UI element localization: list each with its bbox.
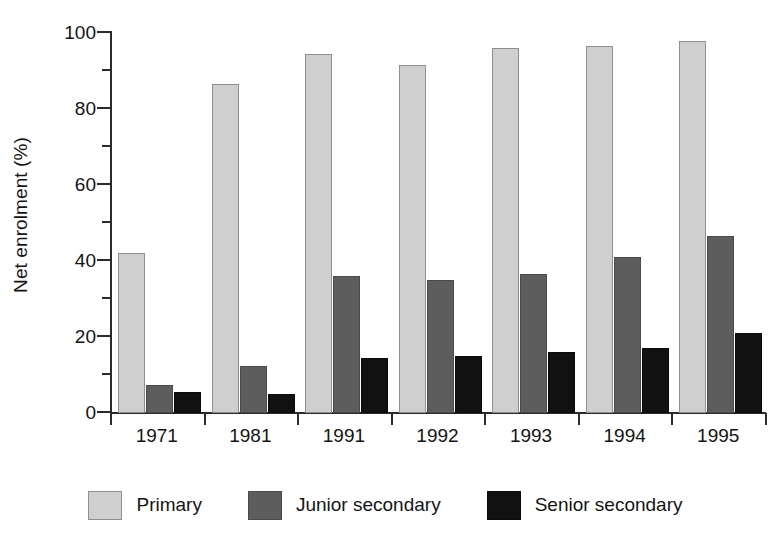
legend-item: Junior secondary <box>248 491 441 520</box>
x-axis-tick <box>391 413 393 425</box>
bar-group <box>492 33 575 413</box>
x-axis-tick <box>110 413 112 425</box>
x-axis-tick <box>204 413 206 425</box>
bar-primary <box>399 65 426 413</box>
legend-swatch-senior <box>487 491 521 520</box>
y-axis-tick-major <box>97 107 110 109</box>
y-axis-tick-label: 40 <box>50 250 96 272</box>
y-axis-tick-minor <box>102 145 110 147</box>
bar-primary <box>305 54 332 413</box>
bar-group <box>586 33 669 413</box>
legend-label: Senior secondary <box>535 494 683 516</box>
legend-swatch-junior <box>248 491 282 520</box>
y-axis-tick-minor <box>102 221 110 223</box>
y-axis-tick-label: 0 <box>50 402 96 424</box>
x-axis-tick <box>484 413 486 425</box>
x-axis-tick-labels: 1971198119911992199319941995 <box>110 425 765 457</box>
bar-junior <box>333 276 360 413</box>
bar-chart: Net enrolment (%) 020406080100 197119811… <box>0 0 771 539</box>
y-axis-tick-label: 80 <box>50 98 96 120</box>
bar-primary <box>118 253 145 413</box>
bar-group <box>679 33 762 413</box>
bar-group <box>399 33 482 413</box>
x-axis-tick-label: 1971 <box>136 425 178 447</box>
bar-group <box>212 33 295 413</box>
bar-senior <box>174 392 201 413</box>
x-axis-tick-label: 1991 <box>323 425 365 447</box>
y-axis-tick-major <box>97 31 110 33</box>
bar-junior <box>240 366 267 414</box>
y-axis-tick-label: 60 <box>50 174 96 196</box>
plot-area <box>110 33 765 413</box>
y-axis-tick-minor <box>102 297 110 299</box>
x-axis-tick-label: 1992 <box>416 425 458 447</box>
bar-junior <box>520 274 547 413</box>
legend-label: Primary <box>136 494 201 516</box>
x-axis-tick <box>297 413 299 425</box>
y-axis-tick-major <box>97 183 110 185</box>
y-axis-tick-major <box>97 411 110 413</box>
bar-senior <box>735 333 762 413</box>
bar-junior <box>427 280 454 413</box>
bar-primary <box>492 48 519 413</box>
bar-primary <box>679 41 706 413</box>
bar-junior <box>614 257 641 413</box>
bar-primary <box>212 84 239 413</box>
x-axis-tick <box>578 413 580 425</box>
y-axis-tick-label: 100 <box>50 22 96 44</box>
bar-junior <box>707 236 734 413</box>
legend-swatch-primary <box>88 491 122 520</box>
x-axis-tick-label: 1995 <box>697 425 739 447</box>
y-axis-title-text: Net enrolment (%) <box>10 137 32 293</box>
bar-senior <box>455 356 482 413</box>
x-axis-tick-label: 1993 <box>510 425 552 447</box>
bar-junior <box>146 385 173 414</box>
y-axis-tick-minor <box>102 373 110 375</box>
x-axis-tick <box>671 413 673 425</box>
x-axis-tick-label: 1994 <box>604 425 646 447</box>
bar-senior <box>642 348 669 413</box>
bar-group <box>118 33 201 413</box>
y-axis-tick-labels: 020406080100 <box>48 33 96 413</box>
y-axis-title: Net enrolment (%) <box>0 0 42 430</box>
x-axis-tick <box>765 413 767 425</box>
bar-senior <box>268 394 295 413</box>
y-axis-tick-minor <box>102 69 110 71</box>
chart-legend: PrimaryJunior secondarySenior secondary <box>0 485 771 525</box>
legend-item: Senior secondary <box>487 491 683 520</box>
bar-primary <box>586 46 613 413</box>
x-axis-tick-label: 1981 <box>229 425 271 447</box>
legend-label: Junior secondary <box>296 494 441 516</box>
bar-group <box>305 33 388 413</box>
y-axis-tick-major <box>97 335 110 337</box>
y-axis-tick-major <box>97 259 110 261</box>
bar-senior <box>361 358 388 413</box>
legend-item: Primary <box>88 491 201 520</box>
bar-senior <box>548 352 575 413</box>
y-axis-tick-label: 20 <box>50 326 96 348</box>
